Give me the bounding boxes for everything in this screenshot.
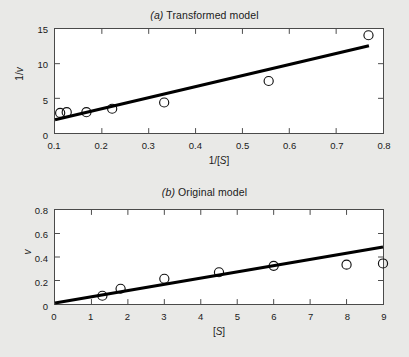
panel-b-ytick-0: 0 bbox=[12, 301, 48, 312]
panel-a-xtick-0.7: 0.7 bbox=[330, 140, 343, 151]
panel-b-xtick-6: 6 bbox=[271, 311, 276, 322]
panel-b-xtick-3: 3 bbox=[161, 311, 166, 322]
panel-b-xtick-1: 1 bbox=[88, 311, 93, 322]
data-point-marker bbox=[264, 76, 273, 85]
panel-b-xtick-0: 0 bbox=[51, 311, 56, 322]
panel-b-ytick-0.6: 0.6 bbox=[12, 229, 48, 240]
panel-a-xtick-0.2: 0.2 bbox=[94, 140, 107, 151]
panel-a-xlabel-sym: S bbox=[220, 155, 227, 166]
panel-b-xlabel-post: ] bbox=[222, 326, 225, 337]
panel-a-xtick-0.6: 0.6 bbox=[283, 140, 296, 151]
panel-b-xtick-5: 5 bbox=[235, 311, 240, 322]
figure-page: (a) Transformed model 1/v 15 10 5 0 0.1 … bbox=[0, 0, 409, 357]
panel-a-title-text: Transformed model bbox=[163, 9, 258, 21]
data-point-marker bbox=[342, 260, 351, 269]
panel-a-title-index: (a) bbox=[150, 9, 163, 21]
panel-a-title: (a) Transformed model bbox=[0, 9, 409, 21]
panel-transformed-model: (a) Transformed model 1/v 15 10 5 0 0.1 … bbox=[0, 0, 409, 180]
panel-b-title-text: Original model bbox=[175, 186, 247, 198]
panel-a-xlabel-post: ] bbox=[227, 155, 230, 166]
panel-a-plot-area bbox=[54, 28, 384, 134]
data-point-marker bbox=[364, 31, 373, 40]
panel-a-xtick-0.1: 0.1 bbox=[47, 140, 60, 151]
data-point-marker bbox=[378, 259, 387, 268]
panel-b-ytick-0.4: 0.4 bbox=[12, 253, 48, 264]
panel-a-ytick-5: 5 bbox=[20, 94, 48, 105]
panel-b-title-index: (b) bbox=[162, 186, 175, 198]
panel-b-plot-area bbox=[54, 209, 384, 305]
panel-b-xtick-9: 9 bbox=[381, 311, 386, 322]
panel-b-ytick-0.2: 0.2 bbox=[12, 277, 48, 288]
panel-a-xtick-0.4: 0.4 bbox=[189, 140, 202, 151]
data-point-marker bbox=[160, 274, 169, 283]
fit-line bbox=[55, 46, 369, 120]
panel-original-model: (b) Original model v 0.8 0.6 0.4 0.2 0 0… bbox=[0, 180, 409, 357]
panel-a-ytick-0: 0 bbox=[20, 130, 48, 141]
panel-b-x-axis-title: [S] bbox=[213, 326, 225, 337]
fit-line bbox=[55, 247, 383, 303]
panel-a-plot-svg bbox=[55, 29, 383, 133]
panel-a-xtick-0.8: 0.8 bbox=[377, 140, 390, 151]
panel-b-xtick-8: 8 bbox=[345, 311, 350, 322]
panel-b-xtick-4: 4 bbox=[198, 311, 203, 322]
panel-b-xtick-2: 2 bbox=[125, 311, 130, 322]
panel-a-ytick-15: 15 bbox=[20, 24, 48, 35]
panel-b-ytick-0.8: 0.8 bbox=[12, 205, 48, 216]
panel-a-ylabel-pre: 1/ bbox=[14, 72, 25, 80]
data-point-marker bbox=[160, 98, 169, 107]
panel-a-xtick-0.3: 0.3 bbox=[142, 140, 155, 151]
panel-b-title: (b) Original model bbox=[0, 186, 409, 198]
panel-a-ytick-10: 10 bbox=[20, 59, 48, 70]
panel-a-xlabel-pre: 1/[ bbox=[209, 155, 220, 166]
panel-b-plot-svg bbox=[55, 210, 383, 304]
panel-a-x-axis-title: 1/[S] bbox=[209, 155, 230, 166]
panel-a-xtick-0.5: 0.5 bbox=[236, 140, 249, 151]
panel-b-xtick-7: 7 bbox=[308, 311, 313, 322]
